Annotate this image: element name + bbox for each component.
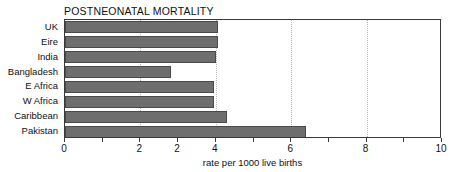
x-tick-label: 0 bbox=[61, 143, 67, 155]
category-label-bangladesh: Bangladesh bbox=[8, 66, 58, 77]
chart-figure: POSTNEONATAL MORTALITY UKEireIndiaBangla… bbox=[0, 0, 455, 172]
bar-india bbox=[65, 51, 216, 63]
x-tick-mark bbox=[102, 138, 103, 142]
bar-uk bbox=[65, 21, 218, 33]
category-label-pakistan: Pakistan bbox=[22, 125, 58, 136]
bar-row bbox=[65, 126, 440, 138]
x-tick-label: 6 bbox=[287, 143, 293, 155]
x-tick-label: 2 bbox=[174, 143, 180, 155]
x-tick-mark bbox=[328, 138, 329, 142]
x-tick-mark bbox=[139, 138, 140, 142]
bars-layer bbox=[65, 20, 440, 137]
bar-bangladesh bbox=[65, 66, 171, 78]
x-tick-mark bbox=[64, 138, 65, 142]
bar-eire bbox=[65, 36, 218, 48]
category-label-uk: UK bbox=[45, 21, 58, 32]
x-tick-mark bbox=[403, 138, 404, 142]
bar-row bbox=[65, 51, 440, 63]
plot-area bbox=[64, 19, 441, 138]
chart-title: POSTNEONATAL MORTALITY bbox=[64, 5, 214, 17]
bar-w-africa bbox=[65, 96, 214, 108]
x-tick-label: 4 bbox=[212, 143, 218, 155]
x-tick-mark bbox=[253, 138, 254, 142]
x-tick-mark bbox=[366, 138, 367, 142]
x-tick-mark bbox=[441, 138, 442, 142]
x-axis: rate per 1000 live births 02246810 bbox=[64, 138, 441, 172]
x-tick-label: 8 bbox=[363, 143, 369, 155]
x-tick-label: 2 bbox=[137, 143, 143, 155]
category-label-e-africa: E Africa bbox=[25, 80, 58, 91]
category-label-w-africa: W Africa bbox=[23, 95, 58, 106]
bar-row bbox=[65, 21, 440, 33]
x-tick-mark bbox=[290, 138, 291, 142]
bar-e-africa bbox=[65, 81, 214, 93]
category-label-india: India bbox=[37, 51, 58, 62]
bar-caribbean bbox=[65, 111, 227, 123]
category-label-eire: Eire bbox=[41, 36, 58, 47]
bar-row bbox=[65, 111, 440, 123]
category-label-caribbean: Caribbean bbox=[14, 110, 58, 121]
bar-row bbox=[65, 96, 440, 108]
bar-row bbox=[65, 66, 440, 78]
x-tick-mark bbox=[177, 138, 178, 142]
x-tick-label: 10 bbox=[435, 143, 446, 155]
x-axis-label: rate per 1000 live births bbox=[64, 157, 441, 168]
category-labels: UKEireIndiaBangladeshE AfricaW AfricaCar… bbox=[0, 19, 61, 138]
bar-row bbox=[65, 81, 440, 93]
x-tick-mark bbox=[215, 138, 216, 142]
bar-pakistan bbox=[65, 126, 306, 138]
bar-row bbox=[65, 36, 440, 48]
